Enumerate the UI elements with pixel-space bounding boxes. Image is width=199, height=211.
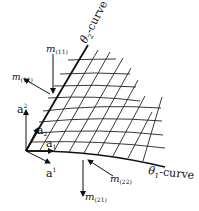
m11-label: m(11) <box>46 43 68 55</box>
a-sup1-arrow <box>26 151 50 163</box>
theta2-curve-label: θ2-curve <box>77 0 112 46</box>
grid-diagram: θ2-curve θ1-curve m(11) m(12) m(22) m(21… <box>0 0 199 211</box>
m21-label: m(21) <box>85 191 107 203</box>
m12-label: m(12) <box>12 72 33 83</box>
a-sub2-label: a2 <box>37 124 48 137</box>
a-sub1-label: a1 <box>46 137 56 150</box>
theta1-curve-label: θ1-curve <box>147 164 194 184</box>
m22-label: m(22) <box>110 173 132 185</box>
a-sup1-label: a1 <box>46 166 56 180</box>
grid-theta2-lines <box>40 50 162 161</box>
diagram-canvas: θ2-curve θ1-curve m(11) m(12) m(22) m(21… <box>0 0 199 211</box>
